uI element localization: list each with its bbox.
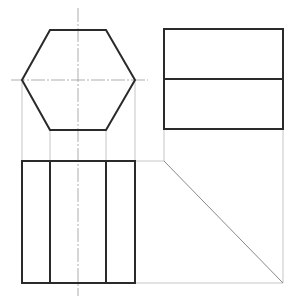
- front-view: [22, 161, 135, 283]
- drawing-canvas: [0, 0, 295, 304]
- projection-lines: [22, 80, 283, 283]
- front-view-rectangle: [22, 161, 135, 283]
- center-lines: [11, 8, 148, 296]
- side-view: [164, 29, 283, 129]
- miter-line: [164, 161, 283, 283]
